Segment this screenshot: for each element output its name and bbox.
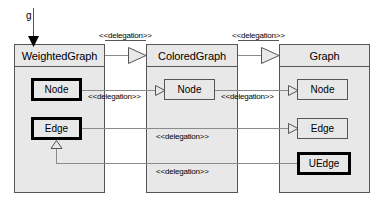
member-label-weightedgraph-edge: Edge [45,123,68,134]
member-box-graph-uedge[interactable]: UEdge [297,152,351,175]
member-label-coloredgraph-node: Node [178,84,202,95]
connector-label-class-wg-cg: <<delegation>> [98,31,153,40]
member-box-coloredgraph-node[interactable]: Node [164,79,215,100]
connector-label-class-cg-g: <<delegation>> [231,31,286,40]
member-label-graph-edge: Edge [311,123,334,134]
instance-label-g: g [26,10,32,21]
member-label-graph-uedge: UEdge [309,158,340,169]
connector-line-class-wg-cg [105,55,129,56]
connector-line-node-wg-cg [82,90,156,91]
connector-label-node-wg-cg: <<delegation>> [88,92,141,101]
member-box-weightedgraph-edge[interactable]: Edge [31,117,82,140]
class-title-coloredgraph: ColoredGraph [147,45,237,67]
connector-top-rail-wg-cg [105,40,146,41]
connector-riser-uedge-g-wg [56,148,57,163]
connector-label-uedge-g-wg: <<delegation>> [155,167,210,176]
connector-line-edge-wg-g [82,128,289,129]
uml-delegation-diagram: g WeightedGraph ColoredGraph Graph <<del… [0,0,384,207]
member-box-graph-edge[interactable]: Edge [297,118,348,139]
connector-line-node-cg-g [215,90,289,91]
class-title-weightedgraph: WeightedGraph [15,45,104,67]
member-label-graph-node: Node [311,84,335,95]
connector-label-node-cg-g: <<delegation>> [221,92,274,101]
connector-label-edge-wg-g: <<delegation>> [155,132,210,141]
instance-pointer-arrowhead [27,36,40,47]
member-label-weightedgraph-node: Node [45,84,69,95]
connector-line-class-cg-g [238,55,262,56]
member-box-graph-node[interactable]: Node [297,79,348,100]
connector-line-uedge-g-wg [56,163,297,164]
hollow-triangle-icon-uedge-g-wg [50,140,63,149]
class-title-graph: Graph [280,45,369,67]
connector-top-rail-cg-g [238,40,279,41]
hollow-triangle-icon-class-cg-g [261,47,280,64]
member-box-weightedgraph-node[interactable]: Node [31,78,82,101]
hollow-triangle-icon-class-wg-cg [128,47,147,64]
